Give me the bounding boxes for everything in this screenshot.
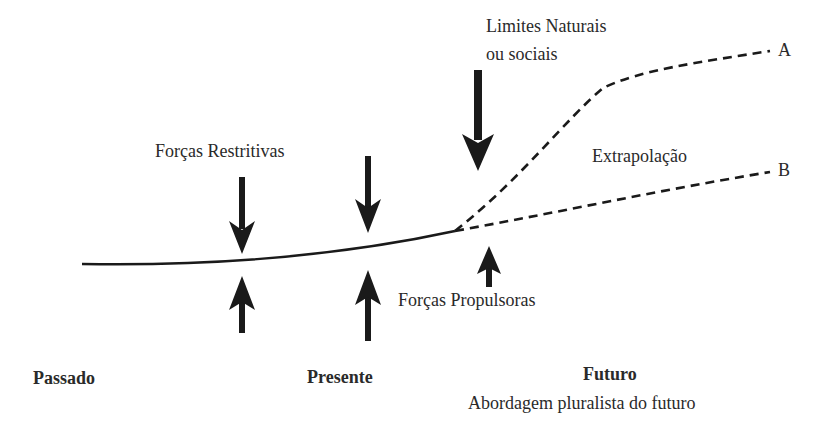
passado-label: Passado — [33, 368, 95, 389]
forcas-propulsoras-label: Forças Propulsoras — [398, 290, 536, 311]
scenario-b-dashed-line — [455, 172, 770, 231]
past-trend-curve — [82, 231, 455, 264]
scenario-a-label: A — [778, 40, 791, 61]
scenario-a-dashed-line — [455, 51, 770, 231]
presente-label: Presente — [307, 367, 373, 388]
up-arrow-icon — [229, 276, 255, 333]
down-arrow-icon — [355, 156, 381, 233]
scenario-b-label: B — [778, 160, 790, 181]
futuro-label: Futuro — [583, 364, 637, 385]
ou-sociais-label: ou sociais — [486, 44, 558, 65]
up-arrow-icon — [355, 270, 381, 341]
futuro-subtitle-label: Abordagem pluralista do futuro — [468, 393, 695, 414]
extrapolacao-label: Extrapolação — [592, 146, 687, 167]
forcas-restritivas-label: Forças Restritivas — [155, 141, 284, 162]
down-arrow-icon — [229, 177, 255, 254]
futures-diagram — [0, 0, 817, 448]
down-arrow-icon — [462, 70, 494, 171]
limites-naturais-label: Limites Naturais — [486, 16, 606, 37]
up-arrow-icon — [477, 246, 501, 287]
